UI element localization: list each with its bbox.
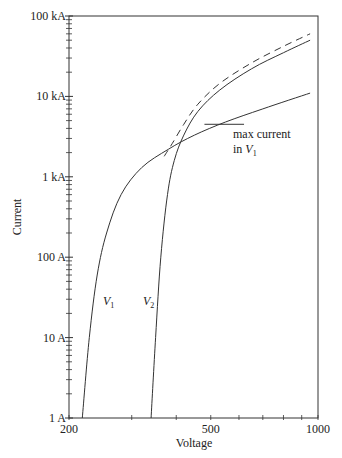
curves — [82, 34, 310, 418]
y-tick-label: 100 kA — [30, 9, 66, 23]
curve-label-v1: V1 — [103, 294, 114, 310]
y-axis-title: Current — [10, 198, 24, 235]
chart: 1 A10 A100 A1 kA10 kA100 kA 2005001000 V… — [0, 0, 342, 458]
curve-v1 — [82, 93, 310, 418]
max-current-annotation-line1: max current — [233, 127, 291, 141]
x-tick-label: 1000 — [306, 422, 330, 436]
y-axis-ticks: 1 A10 A100 A1 kA10 kA100 kA — [30, 9, 73, 425]
y-tick-label: 10 kA — [36, 89, 66, 103]
y-tick-label: 10 A — [43, 331, 66, 345]
y-tick-label: 100 A — [37, 250, 66, 264]
x-axis-title: Voltage — [176, 436, 212, 450]
curve-label-v2: V2 — [143, 294, 154, 310]
y-tick-label: 1 kA — [42, 170, 66, 184]
x-tick-label: 200 — [60, 422, 78, 436]
curve-v2 — [151, 40, 310, 418]
plot-frame — [69, 16, 318, 418]
max-current-annotation-line2: in V1 — [233, 142, 257, 158]
x-tick-label: 500 — [202, 422, 220, 436]
